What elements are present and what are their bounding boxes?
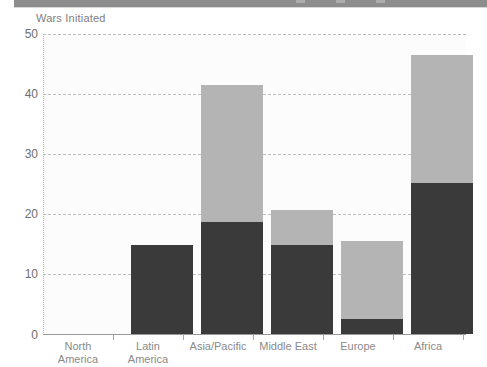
chart-title: Wars Initiated: [36, 12, 106, 24]
bar-segment-light: [271, 210, 333, 245]
y-tick-40: 40: [0, 87, 38, 101]
x-label-europe: Europe: [323, 340, 393, 353]
y-tick-0: 0: [0, 328, 38, 342]
x-axis: [43, 334, 466, 335]
y-tick-50: 50: [0, 27, 38, 41]
bar-chart: Wars Initiated: [0, 7, 487, 367]
bar-segment-dark: [131, 245, 193, 334]
x-label-north-america: North America: [43, 340, 113, 366]
x-label-middle-east: Middle East: [253, 340, 323, 353]
gridline-50: [43, 34, 466, 35]
y-axis: [43, 34, 44, 335]
y-tick-20: 20: [0, 207, 38, 221]
x-tick-6: [463, 334, 464, 340]
bar-segment-dark: [341, 319, 403, 334]
bar-segment-light: [201, 85, 263, 222]
bar-asia-pacific[interactable]: [201, 85, 263, 334]
toolbar-notch-1: [296, 0, 305, 3]
bar-europe[interactable]: [341, 241, 403, 334]
toolbar-notch-2: [336, 0, 345, 3]
bar-latin-america[interactable]: [131, 245, 193, 334]
bar-segment-light: [411, 55, 473, 183]
y-tick-30: 30: [0, 147, 38, 161]
y-tick-10: 10: [0, 267, 38, 281]
x-label-asia-pacific: Asia/Pacific: [183, 340, 253, 353]
bar-africa[interactable]: [411, 55, 473, 334]
plot-area: [43, 34, 466, 334]
bar-segment-dark: [201, 222, 263, 334]
x-label-latin-america: Latin America: [113, 340, 183, 366]
toolbar-notch-3: [376, 0, 385, 3]
bar-segment-dark: [271, 245, 333, 334]
bar-middle-east[interactable]: [271, 210, 333, 334]
x-label-africa: Africa: [393, 340, 463, 353]
bar-segment-dark: [411, 183, 473, 334]
bar-segment-light: [341, 241, 403, 319]
